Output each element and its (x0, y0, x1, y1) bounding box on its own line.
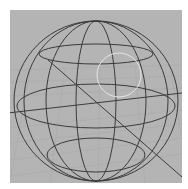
viewport-canvas[interactable] (10, 10, 182, 183)
selection-circle (97, 53, 141, 97)
meridian-middle (46, 21, 146, 181)
latitude-ring-equator (17, 84, 175, 128)
3d-viewport[interactable] (10, 10, 182, 183)
latitude-ring-bottom (47, 138, 145, 172)
sphere-outline (14, 21, 178, 181)
axis-lines (10, 60, 182, 177)
x-axis-line (10, 93, 182, 113)
wireframe-sphere[interactable] (14, 21, 178, 181)
ground-grid (10, 65, 182, 183)
